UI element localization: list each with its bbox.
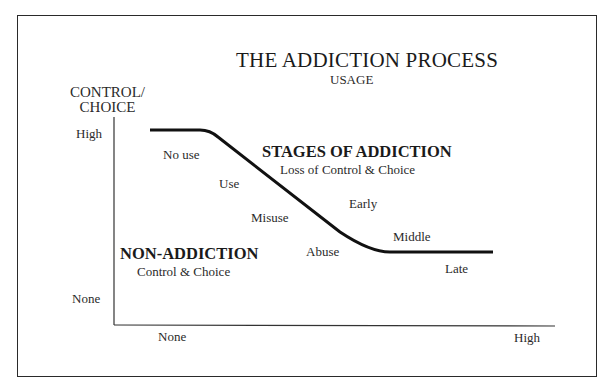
label-use: Use	[219, 176, 239, 192]
label-misuse: Misuse	[251, 210, 289, 226]
y-axis-label-line1: CONTROL/	[70, 85, 145, 100]
stages-heading: STAGES OF ADDICTION	[262, 142, 452, 162]
label-middle: Middle	[393, 229, 431, 245]
x-tick-high: High	[514, 330, 540, 346]
x-tick-none: None	[158, 329, 186, 345]
label-no-use: No use	[163, 147, 199, 163]
label-abuse: Abuse	[306, 244, 339, 260]
diagram-subtitle: USAGE	[330, 72, 373, 88]
y-axis-label-line2: CHOICE	[70, 100, 145, 115]
x-axis-line	[114, 325, 555, 326]
stages-subheading: Loss of Control & Choice	[280, 162, 415, 178]
label-late: Late	[445, 261, 468, 277]
non-addiction-subheading: Control & Choice	[137, 264, 230, 280]
non-addiction-heading: NON-ADDICTION	[120, 244, 258, 264]
label-early: Early	[349, 196, 377, 212]
y-tick-high: High	[76, 126, 102, 142]
diagram-title: THE ADDICTION PROCESS	[236, 48, 498, 73]
y-tick-none: None	[72, 291, 100, 307]
y-axis-label: CONTROL/ CHOICE	[70, 85, 145, 115]
